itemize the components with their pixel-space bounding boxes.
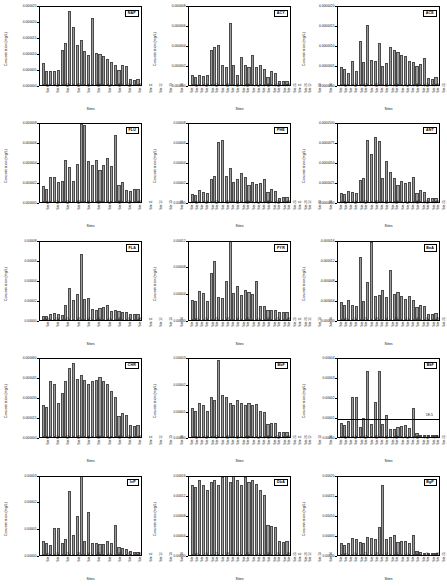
bar (198, 480, 201, 555)
bar-series (40, 359, 141, 437)
bar (83, 380, 86, 437)
bar (244, 405, 247, 437)
bar (374, 61, 377, 85)
bar (393, 178, 396, 202)
bar (408, 61, 411, 85)
bar (366, 140, 369, 202)
y-tick-label: 0.0000100 (319, 121, 335, 125)
y-axis-ticks: 0.000000.000010.000020.00003 (9, 476, 39, 562)
bar (87, 161, 90, 202)
y-tick-label: 0.000000 (321, 319, 335, 323)
bar (80, 254, 83, 320)
plot-area: FLU (39, 123, 142, 203)
bar (217, 360, 220, 437)
panel-label: BaA (424, 244, 437, 251)
y-axis-ticks: 0.000000.000040.000080.000120.00016 (158, 476, 188, 562)
bar (240, 485, 243, 555)
x-axis-title: Sites (337, 107, 440, 111)
y-tick-label: 0.000006 (23, 141, 37, 145)
bar (378, 43, 381, 85)
chart-panel-pyr: Concentration (mg/L)0.000000.000040.0000… (149, 235, 298, 352)
y-tick-label: 0.00002 (25, 299, 37, 303)
bar (389, 47, 392, 85)
bar (340, 423, 343, 437)
bar-series (40, 124, 141, 202)
x-axis-ticks: Site 01Site 02Site 03Site 04Site 05Site … (337, 86, 440, 106)
bar (355, 397, 358, 437)
chart-panel-ace: Concentration (mg/L)0.00000000.00000050.… (298, 0, 447, 117)
x-axis-ticks: Site 01Site 02Site 03Site 04Site 05Site … (188, 556, 291, 576)
bar (68, 167, 71, 202)
bar (98, 377, 101, 437)
bar (240, 173, 243, 202)
reference-line (338, 419, 439, 420)
y-tick-label: 0.00008 (174, 514, 186, 518)
bar (49, 381, 52, 437)
y-axis-title-text: Concentration (mg/L) (4, 384, 8, 418)
bar (110, 166, 113, 202)
bar (42, 405, 45, 437)
bar (385, 161, 388, 203)
bar (64, 160, 67, 202)
bar (80, 375, 83, 438)
bar (266, 525, 269, 555)
bar (251, 294, 254, 319)
panel-label: InP (127, 479, 138, 486)
bar (68, 288, 71, 320)
y-axis-title-text: Concentration (mg/L) (4, 149, 8, 183)
y-tick-label: 0.000015 (23, 36, 37, 40)
bar-series (189, 7, 290, 85)
y-axis-title-text: Concentration (mg/L) (153, 267, 157, 301)
x-tick-label: Site 01 (190, 321, 200, 341)
bar (263, 412, 266, 437)
y-axis-ticks: 0.00000000.00000050.00000100.00000150.00… (307, 6, 337, 92)
x-tick-label-text: Site 10 (436, 317, 447, 327)
chart-panel-bgp: Concentration (mg/L)0.000000.000050.0001… (298, 470, 447, 587)
bar (98, 170, 101, 202)
y-axis-title-text: Concentration (mg/L) (302, 267, 306, 301)
y-tick-label: 0.00004 (174, 161, 186, 165)
bar (396, 292, 399, 320)
bar (87, 512, 90, 555)
y-tick-label: 0.00002 (323, 396, 335, 400)
plot-area: PHE (188, 123, 291, 203)
panel-label: ACY (274, 10, 287, 17)
y-axis-ticks: 0.000000.000050.000100.000150.00020 (307, 476, 337, 562)
y-tick-label: 0.00004 (174, 534, 186, 538)
bar (362, 62, 365, 85)
bar-series (338, 124, 439, 202)
y-axis-title-text: Concentration (mg/L) (302, 384, 306, 418)
bar (247, 482, 250, 555)
bar (191, 485, 194, 555)
y-axis-ticks: 0.0000000.0000020.0000040.0000060.000008 (158, 6, 188, 92)
x-axis-ticks: Site 01Site 02Site 03Site 04Site 05Site … (39, 556, 142, 576)
bar-series (189, 477, 290, 555)
bar (76, 379, 79, 438)
panel-label: BbF (275, 362, 288, 369)
bar (255, 404, 258, 437)
bar (381, 290, 384, 320)
bar (202, 485, 205, 555)
bar (259, 490, 262, 555)
bar (412, 408, 415, 437)
x-axis-ticks: Site 01Site 02Site 03Site 04Site 05Site … (188, 203, 291, 223)
x-tick-label: Site 01 (339, 438, 349, 458)
bar (68, 368, 71, 437)
y-tick-label: 0.000004 (23, 161, 37, 165)
y-tick-label: 0.00004 (174, 292, 186, 296)
y-axis-title-text: Concentration (mg/L) (302, 149, 306, 183)
plot-area: DbA (188, 476, 291, 556)
bar (244, 177, 247, 202)
plot-area: BaA (337, 241, 440, 321)
y-tick-label: 0.000045 (23, 376, 37, 380)
bar (236, 400, 239, 437)
bar (95, 380, 98, 437)
bar (385, 63, 388, 85)
bar (370, 242, 373, 320)
bar (251, 480, 254, 555)
y-tick-label: 0.00006 (25, 259, 37, 263)
panel-label: PYR (274, 244, 287, 251)
y-tick-label: 0.00001 (174, 410, 186, 414)
y-tick-label: 0.00001 (323, 416, 335, 420)
y-tick-label: 0.000012 (321, 259, 335, 263)
